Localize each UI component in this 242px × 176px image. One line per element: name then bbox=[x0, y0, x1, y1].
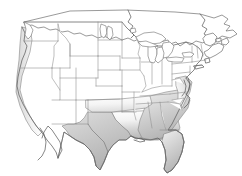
lake-erie bbox=[166, 57, 184, 62]
prince-edward-island-outline bbox=[216, 38, 221, 42]
lake-of-the-woods bbox=[130, 28, 136, 33]
us-map-figure bbox=[0, 0, 242, 176]
us-map-svg bbox=[0, 0, 242, 176]
